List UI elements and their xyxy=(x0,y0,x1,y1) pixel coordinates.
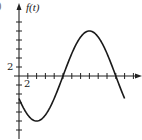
x-axis-arrow-icon xyxy=(135,74,142,79)
y-axis-arrow-icon xyxy=(17,3,22,10)
x-tick-label: 2 xyxy=(24,78,30,89)
y-tick-label: 2 xyxy=(7,61,13,72)
y-axis xyxy=(16,3,22,139)
chart-svg: ) f(t) 2 2 xyxy=(0,0,142,140)
y-axis-label: f(t) xyxy=(26,1,40,14)
x-axis xyxy=(14,73,142,79)
cropped-panel-label: ) xyxy=(0,0,1,12)
